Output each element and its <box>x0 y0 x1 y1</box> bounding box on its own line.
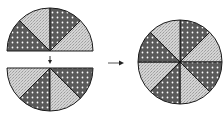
full-circle <box>138 20 222 104</box>
arrow-right-icon <box>108 61 124 66</box>
bottom-semicircle <box>7 68 93 111</box>
top-semicircle <box>7 8 93 51</box>
arrow-down-icon <box>48 56 52 64</box>
diagram-canvas <box>0 0 223 115</box>
